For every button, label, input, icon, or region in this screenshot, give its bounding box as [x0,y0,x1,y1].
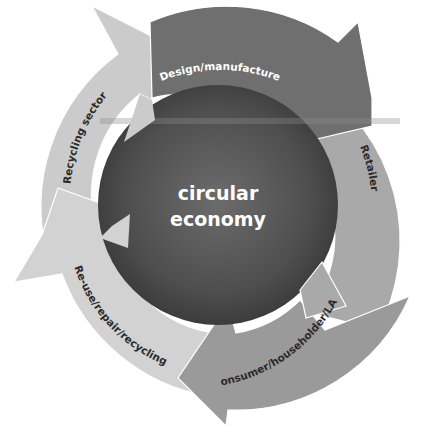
center-title-line2: economy [170,208,267,230]
circular-economy-diagram: Design/manufacture Retailer Consumer/hou… [0,0,434,427]
center-title-line1: circular [178,182,259,204]
